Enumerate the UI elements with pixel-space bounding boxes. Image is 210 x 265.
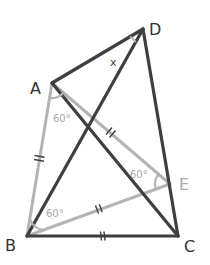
angle-label-a: 60° [53,113,71,124]
point-label-a: A [30,79,41,98]
angle-label-d: x [110,56,117,69]
angle-label-b: 60° [46,208,64,219]
point-label-e: E [179,175,189,194]
geometry-diagram: A D B C E 60° 60° 60° x [0,0,210,265]
diagram-svg: A D B C E 60° 60° 60° x [0,0,210,265]
angle-label-e: 60° [130,169,148,180]
segment-ae [52,83,170,184]
point-label-b: B [5,236,16,255]
segment-dc [143,29,178,236]
point-label-c: C [184,237,195,256]
point-label-d: D [149,20,161,39]
angle-arc-d [130,37,136,43]
